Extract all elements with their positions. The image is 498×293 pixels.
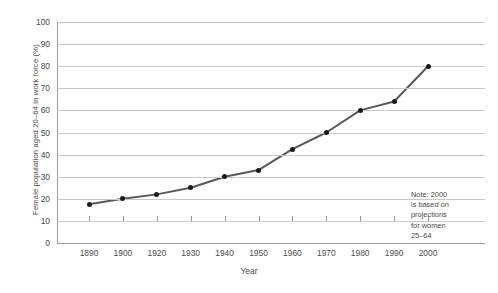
data-point-marker <box>222 174 227 179</box>
y-tick-label: 30 <box>4 172 50 182</box>
y-axis-tick-labels: 0102030405060708090100 <box>0 22 50 243</box>
y-tick-label: 60 <box>4 105 50 115</box>
y-tick-label: 20 <box>4 194 50 204</box>
data-point-marker <box>256 168 261 173</box>
data-point-marker <box>358 108 363 113</box>
y-tick-label: 10 <box>4 216 50 226</box>
data-point-marker <box>154 192 159 197</box>
gridline <box>57 155 485 156</box>
gridline <box>57 243 485 244</box>
y-tick-label: 40 <box>4 150 50 160</box>
x-tick-label: 2000 <box>403 248 453 258</box>
data-point-marker <box>87 202 92 207</box>
data-point-marker <box>120 196 125 201</box>
projection-note: Note: 2000 is based on projections for w… <box>411 190 449 241</box>
data-point-marker <box>188 185 193 190</box>
x-tick-mark <box>259 216 260 221</box>
x-tick-mark <box>292 216 293 221</box>
line-chart: Female population aged 20–64 in work for… <box>0 0 498 293</box>
gridline <box>57 133 485 134</box>
y-tick-label: 70 <box>4 83 50 93</box>
x-tick-mark <box>326 216 327 221</box>
data-point-marker <box>392 99 397 104</box>
x-axis-title: Year <box>0 266 498 276</box>
y-tick-label: 100 <box>4 17 50 27</box>
x-tick-mark <box>89 216 90 221</box>
data-point-marker <box>324 130 329 135</box>
data-point-marker <box>290 147 295 152</box>
gridline <box>57 110 485 111</box>
x-tick-mark <box>157 216 158 221</box>
gridline <box>57 88 485 89</box>
y-tick-label: 50 <box>4 128 50 138</box>
data-point-marker <box>426 64 431 69</box>
x-tick-mark <box>191 216 192 221</box>
x-tick-mark <box>225 216 226 221</box>
x-tick-mark <box>123 216 124 221</box>
gridline <box>57 44 485 45</box>
x-tick-mark <box>360 216 361 221</box>
gridline <box>57 66 485 67</box>
gridline <box>57 177 485 178</box>
y-tick-label: 90 <box>4 39 50 49</box>
y-tick-label: 0 <box>4 238 50 248</box>
gridline <box>57 22 485 23</box>
x-tick-mark <box>394 216 395 221</box>
y-tick-label: 80 <box>4 61 50 71</box>
